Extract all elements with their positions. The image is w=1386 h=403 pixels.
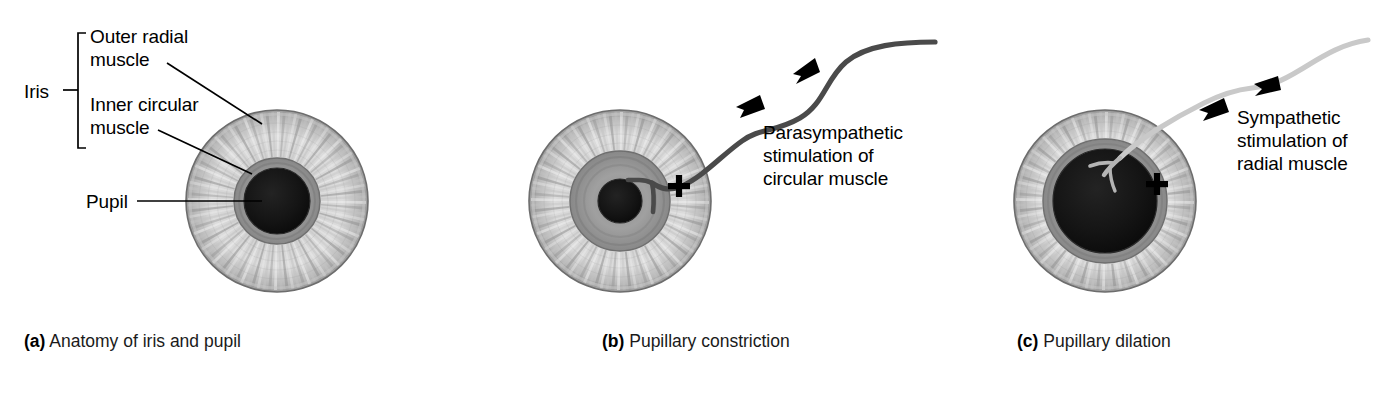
arrowhead-b-1 (793, 58, 820, 84)
caption-panel-a: (a) Anatomy of iris and pupil (24, 331, 241, 352)
caption-a-tag: (a) (24, 331, 45, 351)
arrowhead-b-2 (736, 95, 765, 118)
caption-b-tag: (b) (602, 331, 624, 351)
arrowhead-c-1 (1254, 76, 1281, 96)
caption-c-text: Pupillary dilation (1038, 331, 1170, 351)
caption-c-tag: (c) (1017, 331, 1038, 351)
parasympathetic-stimulation-label: Parasympathetic stimulation of circular … (763, 121, 903, 190)
inner-circular-muscle-label: Inner circular muscle (90, 93, 198, 139)
outer-radial-muscle-label: Outer radial muscle (90, 25, 188, 71)
caption-panel-c: (c) Pupillary dilation (1017, 331, 1171, 352)
sympathetic-stimulation-label: Sympathetic stimulation of radial muscle (1237, 106, 1348, 175)
eye-panel-c (1014, 110, 1196, 292)
iris-bracket (63, 33, 86, 148)
iris-label: Iris (24, 80, 49, 103)
parasympathetic-arrowheads (736, 58, 820, 118)
eye-panel-b (529, 110, 711, 292)
pupil-label: Pupil (86, 190, 128, 213)
caption-b-text: Pupillary constriction (624, 331, 789, 351)
iris-autonomic-control-figure: Iris Outer radial muscle Inner circular … (0, 0, 1386, 403)
nerve-terminal-branch-b2 (652, 183, 654, 212)
caption-a-text: Anatomy of iris and pupil (45, 331, 241, 351)
caption-panel-b: (b) Pupillary constriction (602, 331, 790, 352)
